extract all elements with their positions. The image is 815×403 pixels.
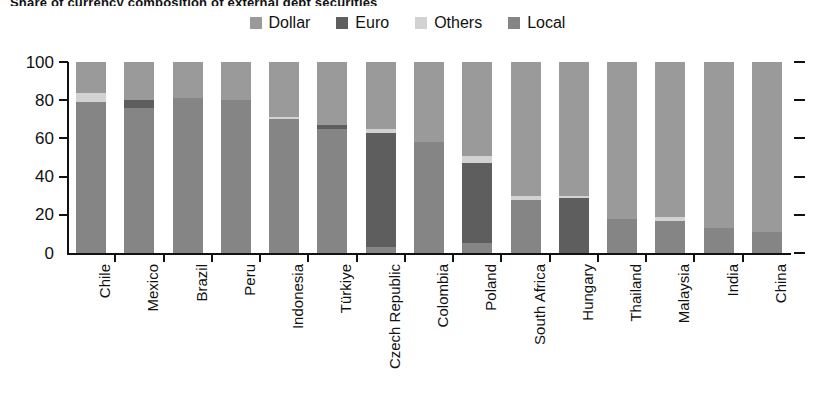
bar-segment-others — [76, 93, 106, 103]
y-tick-label-0: 0 — [45, 245, 54, 262]
chart-title-strip: Share of currency composition of externa… — [10, 0, 510, 6]
bar-segment-dollar — [462, 62, 492, 156]
y-tick-label-40: 40 — [35, 168, 54, 185]
bar-segment-dollar — [76, 62, 106, 93]
legend-label-euro: Euro — [355, 15, 389, 31]
legend-item-dollar[interactable]: Dollar — [250, 15, 311, 31]
bar-segment-local — [704, 228, 734, 253]
bar-segment-local — [221, 100, 251, 253]
bar-india[interactable] — [704, 62, 734, 253]
x-tick-14 — [742, 255, 744, 262]
y-right-tick-40 — [794, 176, 805, 178]
bar-thailand[interactable] — [607, 62, 637, 253]
bar-indonesia[interactable] — [269, 62, 299, 253]
bar-czech-republic[interactable] — [366, 62, 396, 253]
bar-segment-euro — [462, 163, 492, 243]
bar-segment-local — [607, 219, 637, 253]
bar-segment-local — [173, 98, 203, 253]
bar-brazil[interactable] — [173, 62, 203, 253]
x-tick-3 — [211, 255, 213, 262]
bar-mexico[interactable] — [124, 62, 154, 253]
bar-peru[interactable] — [221, 62, 251, 253]
legend-swatch-euro-icon — [336, 17, 348, 29]
bar-segment-dollar — [366, 62, 396, 129]
x-axis-label-mexico: Mexico — [145, 264, 160, 312]
bar-colombia[interactable] — [414, 62, 444, 253]
bar-segment-dollar — [655, 62, 685, 217]
y-right-tick-60 — [794, 137, 805, 139]
x-tick-13 — [693, 255, 695, 262]
x-tick-8 — [452, 255, 454, 262]
x-axis-label-malaysia: Malaysia — [676, 264, 691, 323]
bar-segment-euro — [559, 198, 589, 253]
x-axis-ticks — [67, 255, 791, 263]
bar-segment-local — [317, 129, 347, 253]
x-tick-1 — [114, 255, 116, 262]
bar-segment-local — [752, 232, 782, 253]
bar-segment-local — [462, 243, 492, 253]
bar-segment-dollar — [317, 62, 347, 125]
bar-series-group — [67, 62, 791, 253]
x-axis-label-chile: Chile — [97, 264, 112, 298]
legend-label-others: Others — [434, 15, 482, 31]
bar-segment-dollar — [704, 62, 734, 228]
bar-segment-local — [76, 102, 106, 253]
legend-swatch-others-icon — [415, 17, 427, 29]
x-axis-label-south-africa: South Africa — [532, 264, 547, 345]
y-right-tick-20 — [794, 214, 805, 216]
bar-poland[interactable] — [462, 62, 492, 253]
bar-segment-dollar — [511, 62, 541, 196]
x-axis-label-thailand: Thailand — [628, 264, 643, 322]
y-tick-label-80: 80 — [35, 92, 54, 109]
bar-segment-euro — [366, 133, 396, 248]
y-axis: 020406080100 — [0, 40, 68, 255]
x-axis-label-hungary: Hungary — [580, 264, 595, 321]
bar-segment-local — [655, 221, 685, 253]
bar-segment-local — [511, 200, 541, 253]
x-axis-label-czech-republic: Czech Republic — [387, 264, 402, 369]
bar-segment-others — [462, 156, 492, 164]
bar-chile[interactable] — [76, 62, 106, 253]
y-tick-label-60: 60 — [35, 130, 54, 147]
y-right-tick-100 — [794, 61, 805, 63]
bar-hungary[interactable] — [559, 62, 589, 253]
x-tick-4 — [259, 255, 261, 262]
bar-segment-dollar — [173, 62, 203, 98]
legend-swatch-local-icon — [508, 17, 520, 29]
x-axis-label-poland: Poland — [483, 264, 498, 311]
legend-item-others[interactable]: Others — [415, 15, 482, 31]
x-axis-label-brazil: Brazil — [194, 264, 209, 302]
x-tick-2 — [163, 255, 165, 262]
bar-segment-dollar — [269, 62, 299, 117]
bar-china[interactable] — [752, 62, 782, 253]
bar-segment-local — [414, 142, 444, 253]
legend-swatch-dollar-icon — [250, 17, 262, 29]
y-right-tick-0 — [794, 252, 805, 254]
bar-malaysia[interactable] — [655, 62, 685, 253]
x-axis-labels: ChileMexicoBrazilPeruIndonesiaTürkiyeCze… — [67, 264, 791, 403]
x-axis-label-colombia: Colombia — [435, 264, 450, 327]
x-tick-11 — [597, 255, 599, 262]
y-tick-label-20: 20 — [35, 206, 54, 223]
x-axis-label-türkiye: Türkiye — [338, 264, 353, 313]
x-tick-5 — [307, 255, 309, 262]
bar-segment-local — [269, 119, 299, 253]
x-tick-9 — [500, 255, 502, 262]
legend-item-local[interactable]: Local — [508, 15, 565, 31]
x-tick-12 — [645, 255, 647, 262]
legend-item-euro[interactable]: Euro — [336, 15, 389, 31]
bar-segment-dollar — [414, 62, 444, 142]
x-tick-7 — [404, 255, 406, 262]
bar-segment-euro — [124, 100, 154, 108]
page-title: Share of currency composition of externa… — [10, 0, 510, 6]
legend-label-local: Local — [527, 15, 565, 31]
x-axis-label-china: China — [773, 264, 788, 303]
bar-segment-dollar — [752, 62, 782, 232]
bar-south-africa[interactable] — [511, 62, 541, 253]
x-axis-label-india: India — [725, 264, 740, 297]
bar-segment-dollar — [124, 62, 154, 100]
bar-segment-dollar — [559, 62, 589, 196]
bar-türkiye[interactable] — [317, 62, 347, 253]
bar-segment-local — [124, 108, 154, 253]
chart-plot-area: 020406080100 ChileMexicoBrazilPeruIndone… — [0, 40, 815, 403]
